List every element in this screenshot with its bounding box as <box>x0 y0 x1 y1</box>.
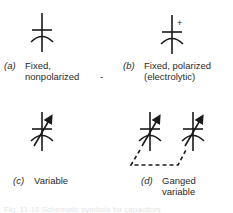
caption-line: nonpolarized <box>4 71 79 82</box>
capacitor-fixed-icon <box>31 13 53 52</box>
caption-b: (b)Fixed, polarized (electrolytic) <box>123 60 211 82</box>
caption-line: Fixed, <box>25 60 51 71</box>
capacitor-variable-icon <box>31 112 53 151</box>
caption-line: Fixed, polarized <box>144 60 211 71</box>
caption-line: Ganged <box>162 175 196 186</box>
bleed-through-text: Fig. 11-16 Schematic symbols for capacit… <box>4 205 161 213</box>
caption-tag: (c) <box>13 175 34 186</box>
caption-line: (electrolytic) <box>123 71 195 82</box>
polarity-plus-mark: + <box>177 18 182 28</box>
caption-a: (a)Fixed, nonpolarized <box>4 60 79 82</box>
capacitor-ganged-variable-icon <box>131 112 204 165</box>
gang-link-dashed <box>131 150 186 165</box>
caption-line: variable <box>141 186 195 197</box>
caption-d: (d)Ganged variable <box>141 175 196 197</box>
caption-tag: (a) <box>4 60 25 71</box>
caption-tag: (d) <box>141 175 162 186</box>
caption-tag: (b) <box>123 60 144 71</box>
caption-c: (c)Variable <box>13 175 68 186</box>
stray-mark: - <box>100 71 103 82</box>
caption-line: Variable <box>34 175 68 186</box>
